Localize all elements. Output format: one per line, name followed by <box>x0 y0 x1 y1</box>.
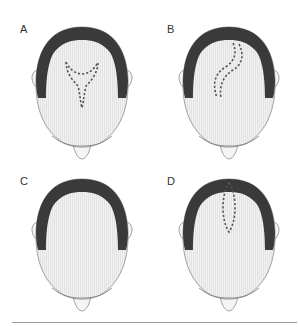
head-diagram-b <box>147 0 294 162</box>
head-diagram-a <box>0 0 147 162</box>
panel-a: A <box>0 0 147 152</box>
head-diagram-d <box>147 152 294 314</box>
panel-c: C <box>0 152 147 304</box>
panel-b: B <box>147 0 294 152</box>
panel-d: D <box>147 152 294 304</box>
bottom-divider <box>12 322 297 323</box>
head-diagram-c <box>0 152 147 314</box>
